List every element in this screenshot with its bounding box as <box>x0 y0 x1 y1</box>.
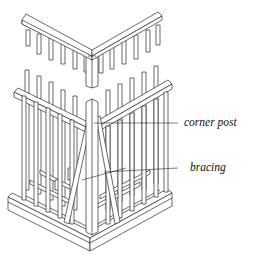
timber-frame-illustration <box>0 0 255 273</box>
corner-post <box>86 99 98 235</box>
bracing-label: bracing <box>190 162 226 174</box>
top-plate-group <box>22 12 162 88</box>
diagram-canvas: corner post bracing <box>0 0 255 273</box>
corner-post-label: corner post <box>184 117 237 129</box>
